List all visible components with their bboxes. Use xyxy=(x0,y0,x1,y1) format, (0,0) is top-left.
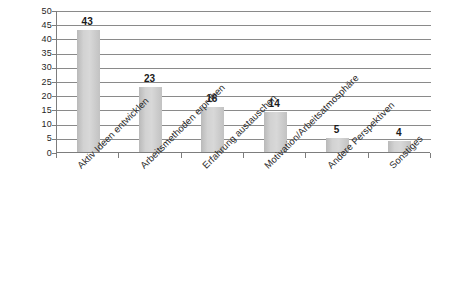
gridline xyxy=(57,25,431,26)
y-axis-tick-label: 15 xyxy=(28,106,52,115)
y-axis-tick-label: 25 xyxy=(28,78,52,87)
x-axis-tick-mark xyxy=(243,153,244,158)
bar-value-label: 5 xyxy=(322,125,352,135)
bar-value-label: 43 xyxy=(72,17,102,27)
y-axis-tick-label: 5 xyxy=(28,134,52,143)
x-axis-tick-mark xyxy=(430,153,431,158)
bar-value-label: 4 xyxy=(384,128,414,138)
x-axis-tick-mark xyxy=(305,153,306,158)
y-axis-tick-label: 50 xyxy=(28,7,52,16)
gridline xyxy=(57,68,431,69)
x-axis-tick-mark xyxy=(181,153,182,158)
y-axis-tick-label: 35 xyxy=(28,49,52,58)
x-axis-tick-mark xyxy=(368,153,369,158)
y-axis-tick-label: 20 xyxy=(28,92,52,101)
gridline xyxy=(57,54,431,55)
gridline xyxy=(57,96,431,97)
x-axis-tick-mark xyxy=(118,153,119,158)
gridline xyxy=(57,11,431,12)
x-axis-tick-mark xyxy=(56,153,57,158)
bar-chart: 05101520253035404550 4323161454 Aktiv Id… xyxy=(0,0,452,305)
y-axis-tick-label: 30 xyxy=(28,63,52,72)
gridline xyxy=(57,82,431,83)
bar-value-label: 23 xyxy=(135,74,165,84)
y-axis-tick-label: 0 xyxy=(28,149,52,158)
bar[interactable] xyxy=(77,30,100,152)
gridline xyxy=(57,39,431,40)
y-axis-tick-label: 40 xyxy=(28,35,52,44)
y-axis-tick-label: 10 xyxy=(28,120,52,129)
y-axis-tick-label: 45 xyxy=(28,21,52,30)
